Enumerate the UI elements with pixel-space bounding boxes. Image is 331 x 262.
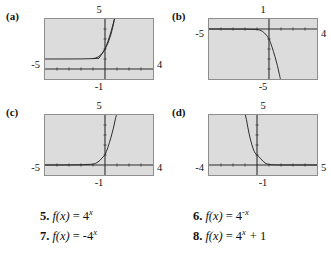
panel-d-label-top: 5 <box>260 101 265 112</box>
exercise-item-6: 6.f(x)=4-x <box>193 208 249 223</box>
panel-c-label-right: 4 <box>157 163 162 174</box>
panel-c-plot <box>45 115 153 175</box>
panel-a-label-right: 4 <box>157 60 162 71</box>
exercise-8-exponent: x <box>242 227 246 237</box>
panel-d-label-bottom: -1 <box>259 178 268 189</box>
exercise-6-equals: = <box>226 209 233 223</box>
exercise-8-equals: = <box>226 229 233 243</box>
panel-a-label-top: 5 <box>96 5 101 16</box>
exercise-5-equals: = <box>73 209 80 223</box>
panel-letter-a: (a) <box>6 10 19 22</box>
panel-c-graph-screen <box>44 114 154 176</box>
panel-d-label-left: -4 <box>195 163 204 174</box>
exercise-8-number: 8. <box>193 229 202 243</box>
panel-c-label-bottom: -1 <box>95 178 104 189</box>
exercise-item-5: 5.f(x)=4x <box>40 208 93 223</box>
panel-letter-b: (b) <box>172 10 185 22</box>
panel-a-label-bottom: -1 <box>95 82 104 93</box>
panel-letter-c: (c) <box>6 106 18 118</box>
panel-d-plot <box>209 115 317 175</box>
panel-letter-d: (d) <box>172 106 185 118</box>
exercise-list: 5.f(x)=4x 7.f(x)=-4x 6.f(x)=4-x 8.f(x)=4… <box>0 200 331 262</box>
exercise-5-arg: (x) <box>56 209 70 223</box>
exercise-8-arg: (x) <box>209 229 223 243</box>
figure-panel-d: (d) 5 -4 5 -1 <box>166 98 331 193</box>
exercise-5-number: 5. <box>40 209 49 223</box>
panel-c-label-top: 5 <box>96 101 101 112</box>
figure-grid: (a) 5 -5 4 -1 <box>0 0 331 196</box>
panel-b-label-top: 1 <box>260 5 265 16</box>
panel-d-label-right: 5 <box>321 163 326 174</box>
exercise-6-exponent: -x <box>242 207 249 217</box>
exercise-8-extra: + 1 <box>250 229 266 243</box>
panel-c-label-left: -5 <box>31 163 40 174</box>
exercise-item-8: 8.f(x)=4x+ 1 <box>193 228 266 243</box>
exercise-7-arg: (x) <box>56 229 70 243</box>
panel-a-graph-screen <box>44 18 154 80</box>
panel-a-label-left: -5 <box>31 60 40 71</box>
panel-d-graph-screen <box>208 114 318 176</box>
exercise-7-base: -4 <box>83 229 93 243</box>
panel-b-plot <box>209 19 317 79</box>
figure-panel-b: (b) 1 -5 4 -5 <box>166 2 331 97</box>
panel-b-label-right: 4 <box>321 29 326 40</box>
exercise-7-equals: = <box>73 229 80 243</box>
exercise-6-number: 6. <box>193 209 202 223</box>
panel-b-graph-screen <box>208 18 318 80</box>
figure-panel-a: (a) 5 -5 4 -1 <box>0 2 165 97</box>
figure-panel-c: (c) 5 -5 4 -1 <box>0 98 165 193</box>
panel-b-label-bottom: -5 <box>259 82 268 93</box>
exercise-7-number: 7. <box>40 229 49 243</box>
panel-b-label-left: -5 <box>195 29 204 40</box>
exercise-7-exponent: x <box>93 227 97 237</box>
exercise-item-7: 7.f(x)=-4x <box>40 228 97 243</box>
exercise-6-arg: (x) <box>209 209 223 223</box>
panel-a-plot <box>45 19 153 79</box>
exercise-5-exponent: x <box>89 207 93 217</box>
